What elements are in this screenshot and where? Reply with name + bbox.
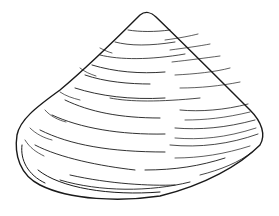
shell-illustration xyxy=(0,0,279,216)
shell-drawing xyxy=(0,0,279,216)
shell-outline xyxy=(16,13,262,200)
